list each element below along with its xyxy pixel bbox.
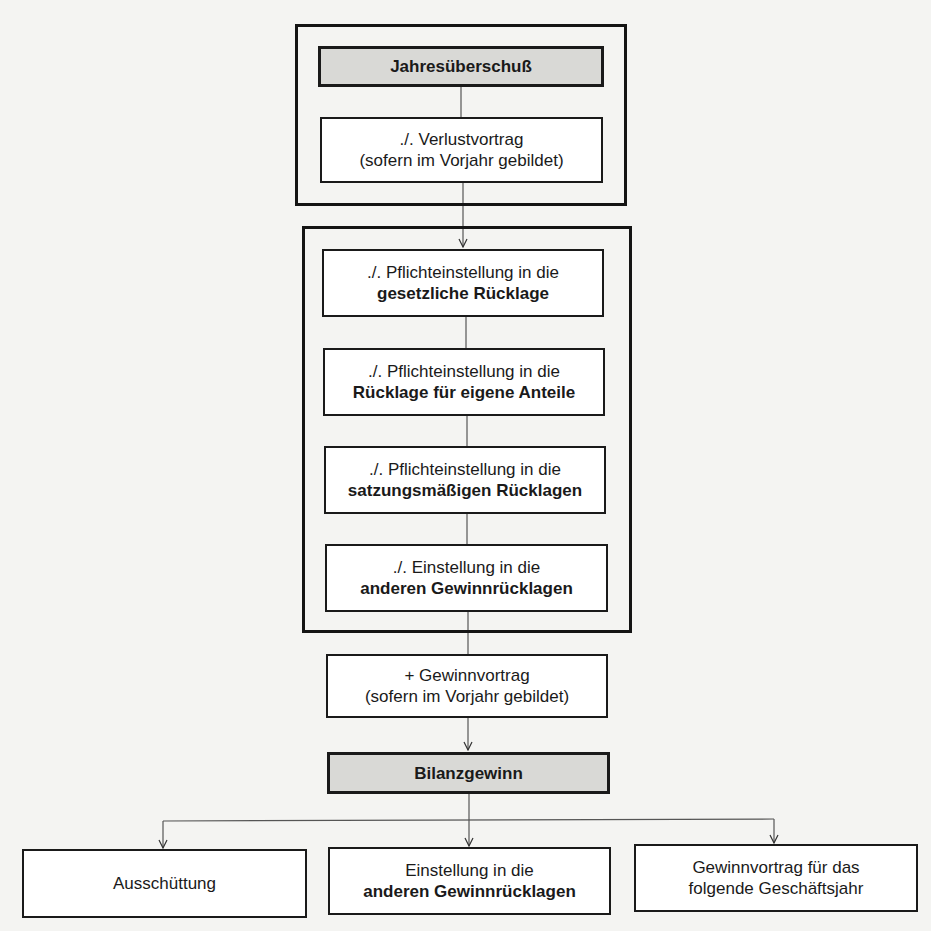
node-bilanzgewinn: Bilanzgewinn xyxy=(327,752,610,794)
node-line2: Rücklage für eigene Anteile xyxy=(353,382,575,403)
node-line2: (sofern im Vorjahr gebildet) xyxy=(359,150,563,171)
node-line2: anderen Gewinnrücklagen xyxy=(363,881,576,902)
node-line2: gesetzliche Rücklage xyxy=(377,283,549,304)
node-gesetzliche-ruecklage: ./. Pflichteinstellung in die gesetzlich… xyxy=(322,249,604,317)
node-gewinnvortrag: + Gewinnvortrag (sofern im Vorjahr gebil… xyxy=(326,654,608,718)
node-verlustvortrag: ./. Verlustvortrag (sofern im Vorjahr ge… xyxy=(320,117,603,183)
node-line1: Gewinnvortrag für das xyxy=(692,857,859,878)
node-jahresueberschuss: Jahresüberschuß xyxy=(318,46,604,87)
node-line1: ./. Einstellung in die xyxy=(393,557,540,578)
node-label: Bilanzgewinn xyxy=(414,763,523,784)
node-gewinnvortrag-folgendes-jahr: Gewinnvortrag für das folgende Geschäfts… xyxy=(634,844,918,912)
node-line2: satzungsmäßigen Rücklagen xyxy=(348,480,582,501)
node-line2: anderen Gewinnrücklagen xyxy=(360,578,573,599)
node-line1: ./. Verlustvortrag xyxy=(400,129,524,150)
node-ausschuettung: Ausschüttung xyxy=(22,849,307,918)
node-einstellung-andere-gewinnruecklagen: Einstellung in die anderen Gewinnrücklag… xyxy=(328,847,611,915)
node-line1: ./. Pflichteinstellung in die xyxy=(367,262,559,283)
node-line1: Einstellung in die xyxy=(405,860,534,881)
node-label: Ausschüttung xyxy=(113,873,216,894)
node-line2: (sofern im Vorjahr gebildet) xyxy=(365,686,569,707)
node-line1: ./. Pflichteinstellung in die xyxy=(368,361,560,382)
node-line1: ./. Pflichteinstellung in die xyxy=(369,459,561,480)
node-ruecklage-eigene-anteile: ./. Pflichteinstellung in die Rücklage f… xyxy=(323,348,605,416)
node-satzungsmaessige-ruecklagen: ./. Pflichteinstellung in die satzungsmä… xyxy=(324,446,606,514)
node-line2: folgende Geschäftsjahr xyxy=(689,878,864,899)
node-andere-gewinnruecklagen: ./. Einstellung in die anderen Gewinnrüc… xyxy=(325,544,608,612)
node-line1: + Gewinnvortrag xyxy=(404,665,529,686)
node-label: Jahresüberschuß xyxy=(390,56,532,77)
